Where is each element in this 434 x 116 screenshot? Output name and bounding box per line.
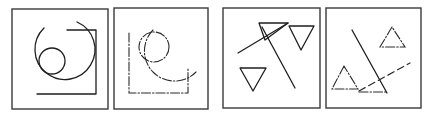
panel-4-line-solid: [352, 30, 387, 93]
panel-3-triangle-bottom: [240, 68, 266, 91]
figure: [0, 0, 434, 116]
panel-3-line-steep: [262, 27, 295, 88]
panel-1-corner-bracket: [37, 30, 96, 94]
panel-4-triangle-left: [332, 66, 358, 89]
panel-4-frame: [326, 8, 421, 108]
panel-2-small-circle: [139, 32, 169, 62]
panel-2-corner-bracket: [129, 33, 188, 93]
panel-2-frame: [114, 8, 208, 109]
panel-4-line-dashed: [359, 63, 410, 91]
figure-canvas: [0, 0, 434, 116]
panel-1-small-circle: [39, 48, 65, 74]
panel-2: [114, 8, 208, 109]
panel-3: [223, 8, 320, 108]
panel-1: [12, 9, 108, 109]
panel-3-triangle-right: [289, 26, 314, 50]
panel-4: [326, 8, 421, 108]
panel-4-triangle-top: [380, 27, 405, 47]
